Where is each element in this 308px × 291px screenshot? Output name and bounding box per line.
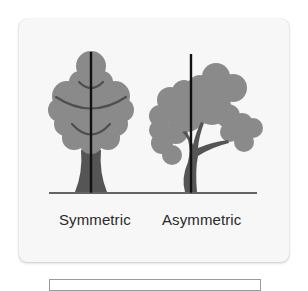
asymmetric-tree-icon [149, 54, 263, 193]
symmetric-label: Symmetric [59, 211, 131, 228]
input-box[interactable] [49, 279, 261, 291]
asymmetric-label: Asymmetric [162, 211, 241, 228]
symmetric-tree-icon [48, 51, 134, 193]
